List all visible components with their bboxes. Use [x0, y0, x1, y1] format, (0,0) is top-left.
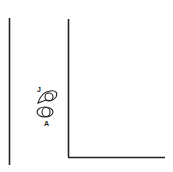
figure-a-label: A: [44, 120, 49, 127]
figure-a-icon: [37, 107, 53, 117]
diagram-canvas: [0, 0, 173, 172]
figure-j-label: J: [37, 86, 41, 93]
